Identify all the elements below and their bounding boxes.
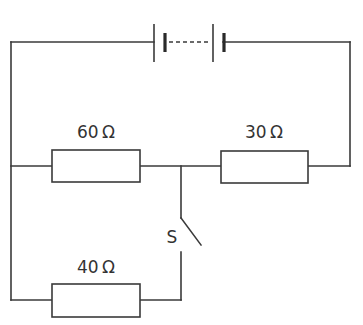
resistor-40-label: 40 Ω <box>77 257 115 277</box>
switch-label: S <box>167 227 178 247</box>
resistor-60-ohm: 60 Ω <box>52 122 140 182</box>
resistor-30-label: 30 Ω <box>245 122 283 142</box>
resistor-30-ohm: 30 Ω <box>221 122 308 183</box>
switch-icon: S <box>167 166 201 300</box>
resistor-40-ohm: 40 Ω <box>52 257 140 317</box>
resistor-60-label: 60 Ω <box>77 122 115 142</box>
circuit-diagram: 60 Ω 30 Ω S 40 Ω <box>0 0 363 325</box>
battery-icon <box>154 24 224 62</box>
